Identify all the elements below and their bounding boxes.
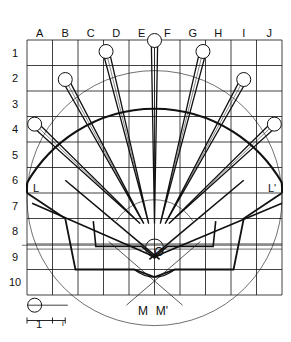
column-label-B: B <box>62 28 69 39</box>
node-circle <box>237 73 251 87</box>
row-label-7: 7 <box>12 200 18 211</box>
row-label-8: 8 <box>12 226 18 237</box>
column-label-I: I <box>242 28 245 39</box>
column-label-E: E <box>138 28 145 39</box>
row-label-1: 1 <box>12 47 18 58</box>
column-label-H: H <box>214 28 222 39</box>
row-label-9: 9 <box>12 251 18 262</box>
bold-ray <box>155 203 283 257</box>
row-label-6: 6 <box>12 175 18 186</box>
node-circle <box>196 44 210 58</box>
column-label-J: J <box>267 28 273 39</box>
column-label-G: G <box>188 28 197 39</box>
row-label-3: 3 <box>12 98 18 109</box>
point-label-M: M <box>138 305 148 317</box>
column-label-A: A <box>36 28 43 39</box>
row-label-5: 5 <box>12 149 18 160</box>
row-label-10: 10 <box>9 277 21 288</box>
point-label-O: O <box>154 246 163 258</box>
column-label-C: C <box>87 28 95 39</box>
row-label-4: 4 <box>12 124 18 135</box>
column-label-D: D <box>112 28 120 39</box>
node-circle <box>267 117 281 131</box>
node-circle <box>28 117 42 131</box>
diagram-canvas: ABCDEFGHIJ 12345678910 L L' O M M' 1 i <box>0 0 291 342</box>
voussoir-spoke <box>103 51 149 224</box>
node-circle <box>99 44 113 58</box>
row-label-2: 2 <box>12 73 18 84</box>
point-label-L: L <box>33 183 39 194</box>
scale-bar-label-minor: i <box>62 320 64 328</box>
node-circle <box>148 34 162 48</box>
column-label-F: F <box>164 28 171 39</box>
scale-bar-label-major: 1 <box>36 319 42 330</box>
node-circle <box>58 73 72 87</box>
construction-drawing <box>0 0 291 342</box>
point-label-L-prime: L' <box>268 183 276 194</box>
voussoir-spoke <box>160 51 206 224</box>
point-label-M-prime: M' <box>156 305 168 317</box>
